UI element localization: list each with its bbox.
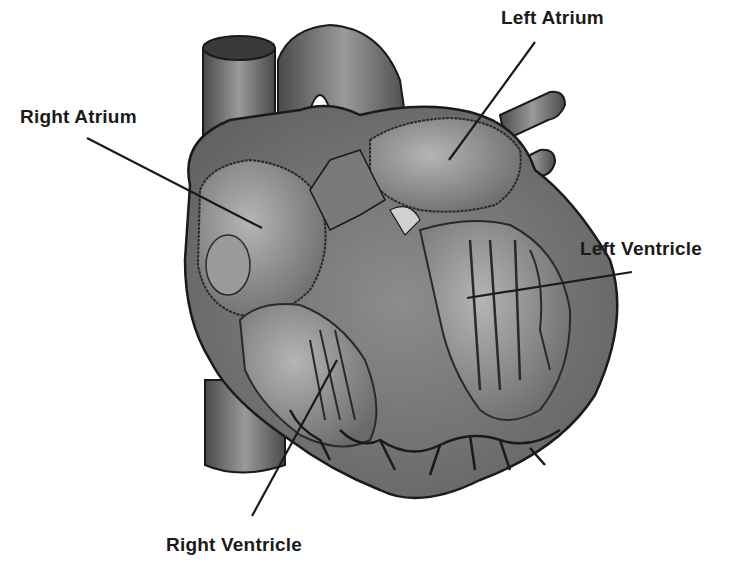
label-left-ventricle: Left Ventricle: [580, 238, 702, 260]
left-atrium-chamber: [370, 118, 521, 212]
label-right-atrium: Right Atrium: [20, 106, 137, 128]
heart-illustration: [0, 0, 746, 571]
right-atrium-chamber: [198, 160, 326, 316]
label-left-atrium: Left Atrium: [501, 7, 604, 29]
label-right-ventricle: Right Ventricle: [166, 534, 302, 556]
